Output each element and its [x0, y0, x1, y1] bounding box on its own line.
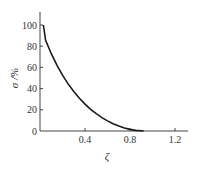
overshoot-chart: 0.40.81.2020406080100 ζ σ /%: [0, 0, 197, 169]
data-series: [43, 25, 143, 131]
axes: [40, 12, 188, 131]
overshoot-curve: [43, 25, 143, 131]
y-tick-label: 0: [32, 126, 37, 137]
y-axis-label: σ /%: [8, 68, 20, 88]
x-axis-label: ζ: [105, 150, 111, 163]
y-tick-label: 100: [22, 20, 37, 31]
x-tick-label: 0.4: [79, 134, 92, 145]
x-tick-label: 1.2: [169, 134, 182, 145]
x-tick-label: 0.8: [124, 134, 137, 145]
y-tick-label: 60: [27, 62, 37, 73]
y-tick-label: 40: [27, 83, 37, 94]
y-tick-label: 20: [27, 104, 37, 115]
y-tick-label: 80: [27, 41, 37, 52]
